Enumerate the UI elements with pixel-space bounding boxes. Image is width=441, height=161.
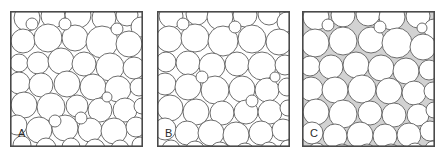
packing-circle: [10, 72, 30, 94]
packing-circle: [157, 95, 183, 121]
packing-circle: [225, 52, 249, 76]
packing-circle: [329, 27, 357, 55]
packing-circle: [410, 34, 435, 60]
packing-circle: [322, 77, 348, 103]
packing-circle: [10, 115, 27, 135]
packing-circle: [10, 54, 28, 72]
packing-circle: [102, 92, 112, 102]
packing-circle: [373, 124, 397, 147]
packing-circle: [48, 48, 74, 74]
packing-circle: [130, 78, 143, 96]
packing-circle: [238, 25, 266, 53]
packing-circle: [266, 29, 290, 55]
packing-circle: [177, 18, 189, 30]
packing-circle: [319, 55, 343, 79]
packing-circle: [126, 117, 143, 137]
packing-circle: [26, 18, 38, 30]
packing-circle: [302, 122, 323, 144]
figure-root: ABC: [0, 0, 441, 161]
packing-circle: [34, 24, 62, 52]
packing-circle: [49, 115, 61, 127]
panel-a: A: [10, 11, 143, 147]
packing-circle: [157, 26, 182, 52]
packing-circle: [368, 55, 394, 81]
packing-circle: [382, 28, 412, 58]
packing-circle: [196, 71, 208, 83]
packing-circle: [75, 112, 87, 124]
packing-circle: [302, 77, 323, 101]
packing-circle: [249, 121, 273, 145]
packing-circle: [323, 124, 347, 147]
packing-circle: [11, 92, 37, 118]
packing-circle: [54, 71, 80, 97]
packing-circle: [229, 21, 241, 33]
packing-circle: [303, 99, 329, 125]
packing-circle: [374, 21, 386, 33]
panel-c: C: [302, 11, 435, 147]
panel-b: B: [157, 11, 290, 147]
packing-circle: [376, 78, 402, 104]
packing-circle: [27, 52, 49, 74]
packing-circle: [420, 121, 435, 141]
packing-circle: [59, 18, 71, 30]
packing-circle: [157, 73, 176, 95]
packing-circle: [116, 31, 142, 57]
packing-circle: [72, 52, 96, 76]
packing-circle: [157, 118, 176, 140]
packing-circle: [322, 19, 334, 31]
packing-circle: [347, 122, 373, 147]
packing-circle: [111, 23, 123, 35]
packing-circle: [246, 95, 258, 107]
packing-circle: [270, 72, 280, 82]
packing-circle: [419, 60, 435, 80]
packing-circle: [157, 52, 176, 72]
packing-circle: [402, 81, 426, 105]
packing-circle: [343, 52, 369, 78]
packing-circle: [382, 103, 406, 127]
packing-circle: [11, 29, 35, 53]
packing-circle: [348, 75, 376, 103]
packing-circle: [123, 57, 143, 79]
packing-circle: [176, 51, 200, 75]
packing-circle: [417, 23, 427, 33]
packing-circle: [302, 56, 320, 76]
packing-circle: [302, 29, 329, 57]
packing-circle: [358, 101, 382, 125]
packing-circle: [272, 119, 290, 141]
